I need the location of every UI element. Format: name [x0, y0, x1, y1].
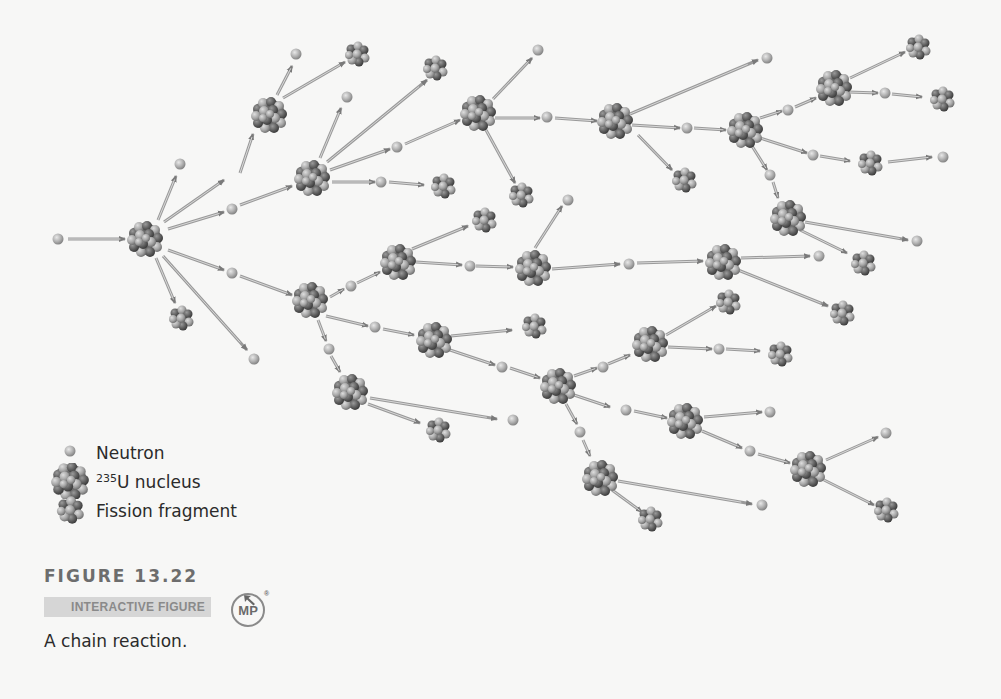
fission-fragment: [472, 208, 497, 233]
neutron: [227, 268, 238, 279]
fission-fragment: [858, 151, 883, 176]
legend-label-fission-fragment: Fission fragment: [96, 501, 237, 521]
fission-fragment: [426, 418, 451, 443]
legend-item-u235-nucleus: 235U nucleus: [50, 467, 237, 496]
fission-fragment: [431, 174, 456, 199]
neutron: [342, 92, 353, 103]
u235-nucleus: [582, 460, 618, 496]
neutron: [508, 415, 519, 426]
neutron: [291, 49, 302, 60]
u235-nucleus: [632, 326, 668, 362]
u235-nucleus: [597, 103, 633, 139]
neutron: [370, 322, 381, 333]
interactive-figure-link[interactable]: INTERACTIVE FIGURE: [44, 597, 211, 617]
legend-item-fission-fragment: Fission fragment: [50, 496, 237, 525]
neutron: [53, 234, 64, 245]
neutron: [563, 195, 574, 206]
u235-nucleus: [460, 95, 496, 131]
u235-nucleus: [127, 221, 163, 257]
legend-label-neutron: Neutron: [96, 443, 164, 463]
neutron: [324, 344, 335, 355]
fission-fragment-icon: [50, 496, 92, 525]
fission-fragment: [672, 168, 697, 193]
legend-label-u235-nucleus: 235U nucleus: [96, 472, 201, 492]
u235-nucleus: [667, 403, 703, 439]
neutron: [175, 159, 186, 170]
neutron: [575, 427, 586, 438]
neutron: [249, 354, 260, 365]
neutron: [912, 236, 923, 247]
u235-nucleus: [816, 70, 852, 106]
fission-fragment: [638, 507, 663, 532]
neutron: [814, 251, 825, 262]
u235-nucleus: [251, 97, 287, 133]
figure-number: FIGURE 13.22: [44, 566, 265, 586]
neutron: [765, 407, 776, 418]
fission-fragment: [522, 314, 547, 339]
neutron: [533, 45, 544, 56]
u235-nucleus: [332, 374, 368, 410]
neutron: [808, 150, 819, 161]
neutron: [765, 170, 776, 181]
neutron: [624, 259, 635, 270]
u235-nucleus: [705, 244, 741, 280]
caption-text: A chain reaction.: [44, 631, 265, 651]
neutron: [621, 405, 632, 416]
neutron: [762, 53, 773, 64]
neutron: [881, 428, 892, 439]
fission-fragment: [930, 87, 955, 112]
neutron: [745, 446, 756, 457]
u235-nucleus: [770, 200, 806, 236]
u235-nucleus: [515, 250, 551, 286]
neutron: [376, 177, 387, 188]
u235-nucleus: [380, 244, 416, 280]
u235-nucleus: [540, 368, 576, 404]
neutron: [497, 362, 508, 373]
neutron: [783, 105, 794, 116]
fission-fragment: [509, 183, 534, 208]
u235-nucleus: [294, 160, 330, 196]
mass-number: 235: [96, 472, 117, 485]
fission-fragment: [169, 306, 194, 331]
u235-nucleus-icon: [50, 467, 92, 496]
fission-fragment: [423, 56, 448, 81]
u235-nucleus: [727, 112, 763, 148]
registered-mark: ®: [264, 590, 269, 597]
fission-fragment: [851, 251, 876, 276]
neutron: [714, 344, 725, 355]
fission-fragment: [768, 342, 793, 367]
fission-fragment: [716, 290, 741, 315]
neutron: [392, 142, 403, 153]
neutron: [346, 281, 357, 292]
interactive-row: INTERACTIVE FIGURE MP ®: [44, 587, 265, 627]
fission-fragment: [906, 35, 931, 60]
u235-nucleus: [790, 451, 826, 487]
neutron: [227, 204, 238, 215]
fission-fragment: [874, 498, 899, 523]
fragments-layer: [169, 35, 955, 532]
neutron: [682, 123, 693, 134]
figure-caption: FIGURE 13.22 INTERACTIVE FIGURE MP ® A c…: [44, 566, 265, 651]
neutron: [598, 362, 609, 373]
u235-nucleus: [292, 282, 328, 318]
fission-fragment: [830, 301, 855, 326]
neutron: [757, 500, 768, 511]
fission-fragment: [345, 42, 370, 67]
neutron: [542, 112, 553, 123]
neutron: [880, 88, 891, 99]
u235-nucleus: [416, 322, 452, 358]
neutron: [938, 152, 949, 163]
neutron: [465, 261, 476, 272]
mp-badge[interactable]: MP ®: [231, 593, 265, 627]
legend: Neutron 235U nucleus Fission fragment: [50, 438, 237, 525]
